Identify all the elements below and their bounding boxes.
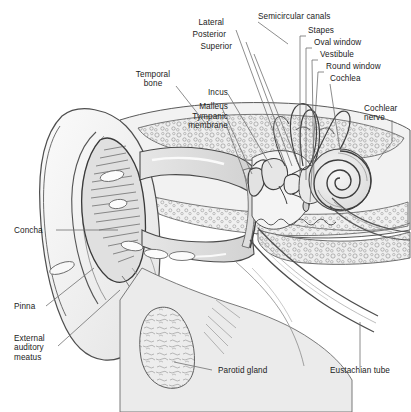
ear-anatomy-figure: Lateral Posterior Superior Semicircular … xyxy=(0,0,411,412)
label-vestibule: Vestibule xyxy=(320,50,354,59)
label-oval-window: Oval window xyxy=(314,38,361,47)
cochlea-shape xyxy=(309,149,371,211)
label-posterior: Posterior xyxy=(160,30,226,39)
label-external-auditory-meatus: External auditory meatus xyxy=(14,334,45,362)
label-cochlea: Cochlea xyxy=(330,74,361,83)
label-temporal-bone: Temporal bone xyxy=(124,70,182,89)
label-concha: Concha xyxy=(14,226,43,235)
label-pinna: Pinna xyxy=(14,302,35,311)
label-semicircular-canals: Semicircular canals xyxy=(258,12,331,21)
label-cochlear-nerve: Cochlear nerve xyxy=(364,104,397,123)
label-malleus: Malleus xyxy=(174,102,228,111)
label-superior: Superior xyxy=(170,42,232,51)
label-stapes: Stapes xyxy=(308,26,334,35)
label-eustachian-tube: Eustachian tube xyxy=(330,366,390,375)
label-parotid-gland: Parotid gland xyxy=(218,366,267,375)
label-round-window: Round window xyxy=(326,62,381,71)
label-lateral: Lateral xyxy=(168,18,224,27)
label-tympanic-membrane: Tympanic membrane xyxy=(164,112,228,131)
label-incus: Incus xyxy=(182,88,228,97)
